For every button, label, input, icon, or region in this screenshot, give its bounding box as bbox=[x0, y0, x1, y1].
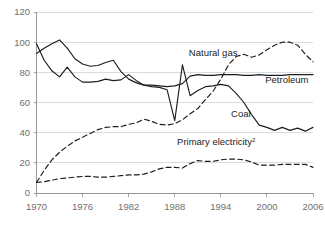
tickmarks-group bbox=[34, 12, 314, 197]
x-axis-tick-label: 1994 bbox=[210, 201, 231, 212]
data-series-group bbox=[37, 40, 314, 183]
y-axis-tick-label: 60 bbox=[19, 97, 30, 108]
chart-canvas: 020406080100120 197019761982198819942000… bbox=[0, 0, 325, 226]
x-axis-tick-labels: 1970197619821988199420002006 bbox=[26, 201, 324, 212]
series-line-coal bbox=[37, 44, 314, 131]
y-axis-tick-label: 40 bbox=[19, 127, 30, 138]
y-axis-tick-labels: 020406080100120 bbox=[14, 6, 30, 198]
x-axis-tick-label: 1970 bbox=[26, 201, 47, 212]
y-axis-tick-label: 100 bbox=[14, 37, 30, 48]
x-axis-tick-label: 1982 bbox=[118, 201, 139, 212]
footnote-superscript: 2 bbox=[252, 137, 256, 143]
x-axis-tick-label: 2006 bbox=[302, 201, 323, 212]
series-label-natural-gas: Natural gas bbox=[189, 47, 238, 58]
y-axis-tick-label: 80 bbox=[19, 67, 30, 78]
line-chart: 020406080100120 197019761982198819942000… bbox=[0, 0, 325, 226]
series-label-primary-electricity: Primary electricity2 bbox=[177, 136, 256, 147]
series-label-petroleum: Petroleum bbox=[265, 74, 308, 85]
series-line-natural-gas bbox=[37, 42, 314, 182]
x-axis-tick-label: 1988 bbox=[164, 201, 185, 212]
series-label-coal: Coal bbox=[231, 108, 251, 119]
y-axis-tick-label: 20 bbox=[19, 157, 30, 168]
x-axis-tick-label: 2000 bbox=[256, 201, 277, 212]
y-axis-tick-label: 120 bbox=[14, 6, 30, 17]
y-axis-tick-label: 0 bbox=[25, 187, 30, 198]
x-axis-tick-label: 1976 bbox=[72, 201, 93, 212]
gridlines-group bbox=[37, 12, 314, 193]
